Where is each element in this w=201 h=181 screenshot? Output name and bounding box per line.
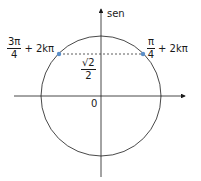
origin-label: 0 xyxy=(91,99,97,109)
suffix: + 2kπ xyxy=(158,44,188,54)
label-sqrt2-over-2: √2 2 xyxy=(81,58,96,81)
point-right xyxy=(141,52,145,56)
denominator: 4 xyxy=(148,49,154,60)
denominator: 4 xyxy=(11,49,17,60)
label-left-angle: 3π 4 + 2kπ xyxy=(7,37,54,60)
suffix: + 2kπ xyxy=(24,44,54,54)
numerator: 3π xyxy=(7,37,21,49)
point-left xyxy=(57,52,61,56)
label-right-angle: π 4 + 2kπ xyxy=(147,37,188,60)
fraction: √2 2 xyxy=(81,58,96,81)
fraction: π 4 xyxy=(147,37,155,60)
fraction: 3π 4 xyxy=(7,37,21,60)
denominator: 2 xyxy=(85,70,91,81)
axis-label-sen: sen xyxy=(107,9,125,19)
numerator: π xyxy=(147,37,155,49)
diagram-canvas xyxy=(0,0,201,181)
numerator: √2 xyxy=(81,58,96,70)
